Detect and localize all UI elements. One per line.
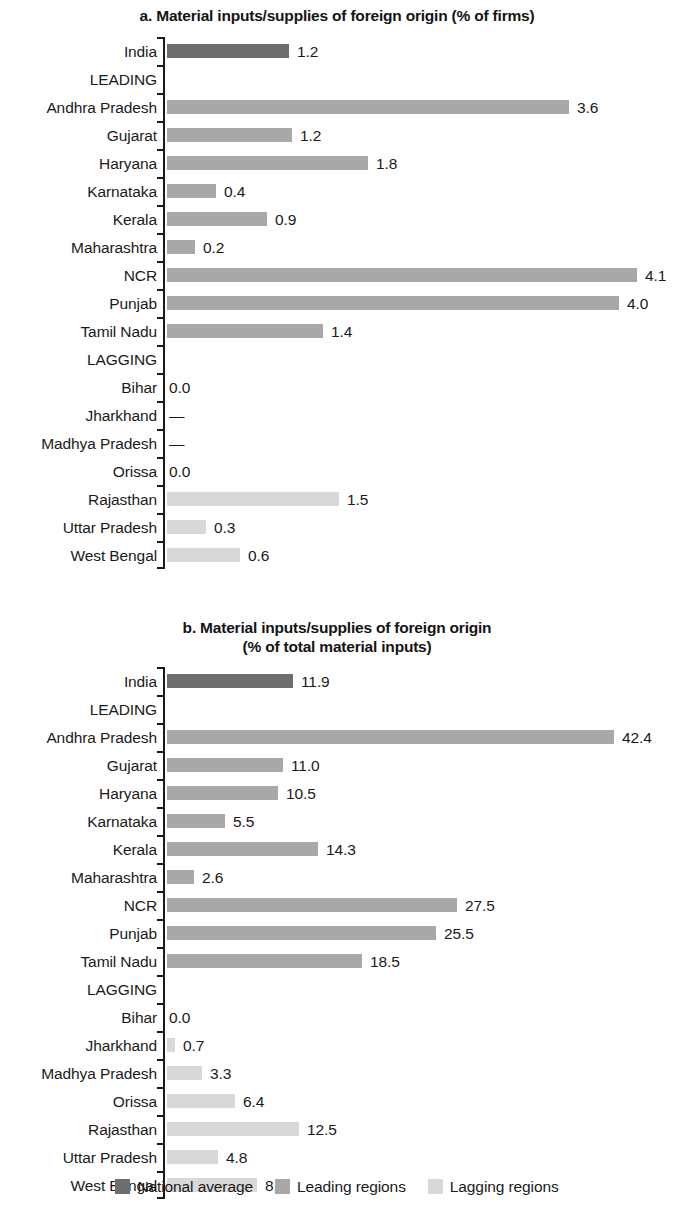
category-label: Maharashtra (0, 869, 163, 886)
axis-tick (157, 177, 163, 179)
category-label: Orissa (0, 1093, 163, 1110)
bar-value-label: 0.2 (203, 239, 224, 256)
category-axis-spine (163, 975, 165, 1003)
category-axis-spine (163, 457, 165, 485)
category-axis-spine (163, 919, 165, 947)
bar-leading (167, 128, 292, 142)
bar-value-label: 0.6 (248, 547, 269, 564)
category-axis-spine (163, 1059, 165, 1087)
category-label: NCR (0, 267, 163, 284)
bar-leading (167, 842, 318, 856)
axis-tick (157, 1171, 163, 1173)
plot-area: 0.4 (163, 177, 674, 205)
category-label: LAGGING (0, 351, 163, 368)
category-label: Haryana (0, 155, 163, 172)
bar-value-label: 27.5 (465, 897, 495, 914)
plot-area: 10.5 (163, 779, 674, 807)
category-axis-spine (163, 1143, 165, 1171)
category-axis-spine (163, 233, 165, 261)
bar-row: Andhra Pradesh3.6 (0, 93, 674, 121)
plot-area: 1.5 (163, 485, 674, 513)
bar-national (167, 674, 293, 688)
legend-item-lagging: Lagging regions (428, 1178, 559, 1195)
category-axis-spine (163, 177, 165, 205)
plot-area: — (163, 401, 674, 429)
legend-item-leading: Leading regions (275, 1178, 406, 1195)
bar-value-label: 10.5 (286, 785, 316, 802)
category-label: Gujarat (0, 757, 163, 774)
category-label: Gujarat (0, 127, 163, 144)
axis-tick (157, 373, 163, 375)
category-axis-spine (163, 947, 165, 975)
bar-value-label: 18.5 (370, 953, 400, 970)
category-label: Punjab (0, 925, 163, 942)
axis-tick (157, 835, 163, 837)
category-axis-spine (163, 541, 165, 569)
bar-leading (167, 786, 278, 800)
axis-tick (157, 1197, 163, 1199)
plot-area: — (163, 429, 674, 457)
plot-area: 6.4 (163, 1087, 674, 1115)
plot-area: 11.9 (163, 667, 674, 695)
bar-value-label: 1.2 (300, 127, 321, 144)
axis-tick (157, 121, 163, 123)
category-axis-spine (163, 695, 165, 723)
category-axis-spine (163, 863, 165, 891)
bar-row: Haryana10.5 (0, 779, 674, 807)
bar-leading (167, 100, 569, 114)
category-label: LEADING (0, 701, 163, 718)
bar-value-label: 14.3 (326, 841, 356, 858)
category-axis-spine (163, 1003, 165, 1031)
bar-leading (167, 814, 225, 828)
axis-tick (157, 667, 163, 669)
bar-value-label: 4.0 (627, 295, 648, 312)
axis-tick (157, 233, 163, 235)
category-label: Kerala (0, 211, 163, 228)
bar-leading (167, 156, 368, 170)
category-label: India (0, 43, 163, 60)
bar-row: Rajasthan1.5 (0, 485, 674, 513)
category-label: India (0, 673, 163, 690)
plot-area: 4.8 (163, 1143, 674, 1171)
axis-tick (157, 1003, 163, 1005)
legend-label: National average (137, 1178, 253, 1195)
panel-a: a. Material inputs/supplies of foreign o… (0, 6, 674, 569)
plot-area: 0.2 (163, 233, 674, 261)
category-axis-spine (163, 751, 165, 779)
plot-area: 25.5 (163, 919, 674, 947)
axis-tick (157, 485, 163, 487)
category-axis-spine (163, 1031, 165, 1059)
panel-b-chart: India11.9LEADINGAndhra Pradesh42.4Gujara… (0, 667, 674, 1199)
plot-area: 5.5 (163, 807, 674, 835)
panel-a-rows: India1.2LEADINGAndhra Pradesh3.6Gujarat1… (0, 37, 674, 569)
panel-b-title-line2: (% of total material inputs) (0, 637, 674, 656)
bar-row: Tamil Nadu1.4 (0, 317, 674, 345)
axis-tick (157, 863, 163, 865)
bar-value-label: 0.0 (169, 379, 190, 396)
axis-tick (157, 261, 163, 263)
category-label: Uttar Pradesh (0, 1149, 163, 1166)
axis-tick (157, 947, 163, 949)
plot-area: 1.8 (163, 149, 674, 177)
bar-value-label: 25.5 (444, 925, 474, 942)
category-label: Karnataka (0, 813, 163, 830)
category-label: Madhya Pradesh (0, 1065, 163, 1082)
axis-tick (157, 779, 163, 781)
bar-row: Gujarat1.2 (0, 121, 674, 149)
category-axis-spine (163, 149, 165, 177)
category-label: Andhra Pradesh (0, 99, 163, 116)
bar-row: Bihar0.0 (0, 1003, 674, 1031)
bar-leading (167, 926, 436, 940)
bar-row: Kerala14.3 (0, 835, 674, 863)
axis-tick (157, 401, 163, 403)
axis-tick (157, 1087, 163, 1089)
category-label: Jharkhand (0, 407, 163, 424)
category-axis-spine (163, 667, 165, 695)
legend-label: Lagging regions (450, 1178, 559, 1195)
category-axis-spine (163, 891, 165, 919)
axis-tick (157, 1031, 163, 1033)
category-axis-spine (163, 723, 165, 751)
category-label: Andhra Pradesh (0, 729, 163, 746)
group-header-row: LAGGING (0, 975, 674, 1003)
bar-value-label: 42.4 (622, 729, 652, 746)
